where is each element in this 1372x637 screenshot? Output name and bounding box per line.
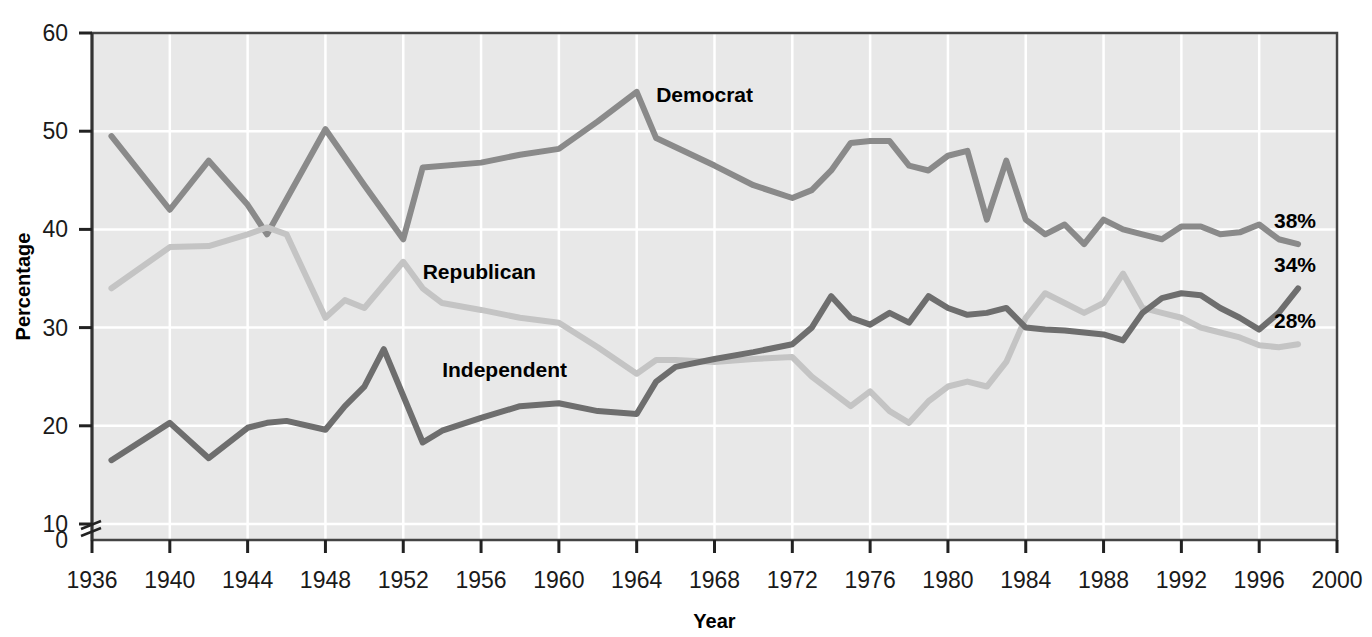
x-tick-label: 1988 [1078, 567, 1129, 593]
x-tick-label: 1964 [611, 567, 662, 593]
x-tick-label: 1980 [922, 567, 973, 593]
series-label-republican: Republican [423, 260, 536, 283]
y-tick-label: 30 [42, 315, 68, 341]
y-tick-label: 20 [42, 413, 68, 439]
x-tick-label: 1940 [144, 567, 195, 593]
x-tick-label: 1968 [689, 567, 740, 593]
x-tick-label: 1956 [455, 567, 506, 593]
x-tick-label: 1984 [1000, 567, 1051, 593]
y-axis-title: Percentage [12, 233, 34, 341]
x-tick-label: 1996 [1234, 567, 1285, 593]
end-value-label-republican: 28% [1274, 309, 1316, 332]
y-tick-label: 60 [42, 20, 68, 46]
end-value-label-democrat: 38% [1274, 209, 1316, 232]
y-tick-label: 10 [42, 511, 68, 537]
x-tick-label: 1972 [767, 567, 818, 593]
x-tick-label: 2000 [1311, 567, 1362, 593]
chart-canvas: 0102030405060193619401944194819521956196… [0, 0, 1372, 637]
x-tick-label: 1976 [845, 567, 896, 593]
x-tick-label: 1948 [300, 567, 351, 593]
x-tick-label: 1960 [533, 567, 584, 593]
x-tick-label: 1952 [378, 567, 429, 593]
line-chart: 0102030405060193619401944194819521956196… [0, 0, 1372, 637]
x-tick-label: 1944 [222, 567, 273, 593]
end-value-label-independent: 34% [1274, 253, 1316, 276]
x-tick-label: 1992 [1156, 567, 1207, 593]
x-axis-title: Year [693, 610, 735, 632]
y-tick-label: 50 [42, 118, 68, 144]
series-label-independent: Independent [442, 358, 567, 381]
y-tick-label: 40 [42, 216, 68, 242]
series-label-democrat: Democrat [656, 83, 753, 106]
x-tick-label: 1936 [66, 567, 117, 593]
